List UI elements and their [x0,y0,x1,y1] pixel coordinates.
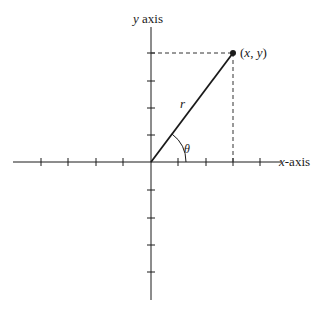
point-label: (x, y) [240,45,267,60]
radius-line [151,53,233,162]
polar-coordinates-diagram: y axis x-axis (x, y) r θ [0,0,315,312]
radius-label: r [180,96,186,111]
point-marker [230,50,236,56]
angle-label: θ [184,142,190,156]
y-axis-label: y axis [131,11,163,26]
x-axis-label: x-axis [278,154,310,169]
